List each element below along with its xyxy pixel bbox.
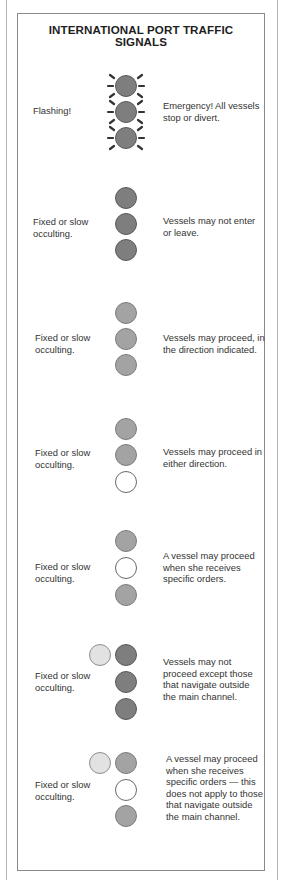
meaning-line: that navigate outside <box>166 799 268 811</box>
green-light <box>115 418 137 440</box>
outer-border-left <box>6 0 7 880</box>
red-light <box>115 213 137 235</box>
green-light <box>115 584 137 606</box>
signal-mode-label: Fixed or slow occulting. <box>35 670 105 693</box>
mode-line: occulting. <box>35 791 105 803</box>
meaning-line: when she receives <box>163 562 265 574</box>
meaning-line: Vessels may proceed, in <box>163 332 265 344</box>
signal-meaning: A vessel may proceed when she receives s… <box>163 550 265 585</box>
red-light-flashing <box>115 127 137 149</box>
mode-line: Fixed or slow <box>35 447 105 459</box>
meaning-line: or leave. <box>163 227 265 239</box>
signal-mode-label: Flashing! <box>33 105 103 117</box>
signal-mode-label: Fixed or slow occulting. <box>35 561 105 584</box>
signal-meaning: Emergency! All vessels stop or divert. <box>163 100 265 123</box>
signal-mode-label: Fixed or slow occulting. <box>35 447 105 470</box>
white-light <box>115 779 137 801</box>
signal-meaning: Vessels may proceed, in the direction in… <box>163 332 265 355</box>
meaning-line: Emergency! All vessels <box>163 100 265 112</box>
meaning-line: the direction indicated. <box>163 344 265 356</box>
signal-meaning: Vessels may proceed in either direction. <box>163 446 265 469</box>
mode-line: Fixed or slow <box>33 216 103 228</box>
meaning-line: Vessels may proceed in <box>163 446 265 458</box>
page-title: INTERNATIONAL PORT TRAFFIC SIGNALS <box>17 24 265 47</box>
meaning-line: proceed except those <box>163 668 265 680</box>
signal-meaning: A vessel may proceed when she receives s… <box>166 753 268 823</box>
meaning-line: specific orders. <box>163 573 265 585</box>
mode-line: occulting. <box>35 459 105 471</box>
green-light <box>115 302 137 324</box>
meaning-line: the main channel. <box>163 691 265 703</box>
mode-line: occulting. <box>35 573 105 585</box>
signal-meaning: Vessels may not enter or leave. <box>163 215 265 238</box>
green-light <box>115 444 137 466</box>
mode-line: Fixed or slow <box>35 332 105 344</box>
mode-line: occulting. <box>35 682 105 694</box>
green-light <box>115 530 137 552</box>
red-light <box>115 187 137 209</box>
meaning-line: does not apply to those <box>166 788 268 800</box>
green-light <box>115 752 137 774</box>
meaning-line: that navigate outside <box>163 679 265 691</box>
red-light <box>115 644 137 666</box>
yellow-side-light <box>89 752 111 774</box>
meaning-line: A vessel may proceed <box>166 753 268 765</box>
white-light <box>115 557 137 579</box>
meaning-line: Vessels may not <box>163 656 265 668</box>
meaning-line: the main channel. <box>166 811 268 823</box>
meaning-line: Vessels may not enter <box>163 215 265 227</box>
white-light <box>115 471 137 493</box>
meaning-line: when she receives <box>166 765 268 777</box>
title-line-2: SIGNALS <box>17 36 265 48</box>
mode-line: occulting. <box>33 228 103 240</box>
title-line-1: INTERNATIONAL PORT TRAFFIC <box>17 24 265 36</box>
meaning-line: specific orders — this <box>166 776 268 788</box>
signal-meaning: Vessels may not proceed except those tha… <box>163 656 265 702</box>
red-light <box>115 698 137 720</box>
signal-mode-label: Fixed or slow occulting. <box>35 332 105 355</box>
mode-line: Fixed or slow <box>35 670 105 682</box>
mode-line: Fixed or slow <box>35 561 105 573</box>
green-light <box>115 805 137 827</box>
red-light <box>115 671 137 693</box>
mode-line: occulting. <box>35 344 105 356</box>
mode-line: Fixed or slow <box>35 779 105 791</box>
green-light <box>115 354 137 376</box>
signal-mode-label: Fixed or slow occulting. <box>35 779 105 802</box>
meaning-line: stop or divert. <box>163 112 265 124</box>
yellow-side-light <box>89 644 111 666</box>
signal-mode-label: Fixed or slow occulting. <box>33 216 103 239</box>
red-light <box>115 239 137 261</box>
outer-border-right <box>277 0 278 880</box>
meaning-line: either direction. <box>163 458 265 470</box>
green-light <box>115 328 137 350</box>
meaning-line: A vessel may proceed <box>163 550 265 562</box>
